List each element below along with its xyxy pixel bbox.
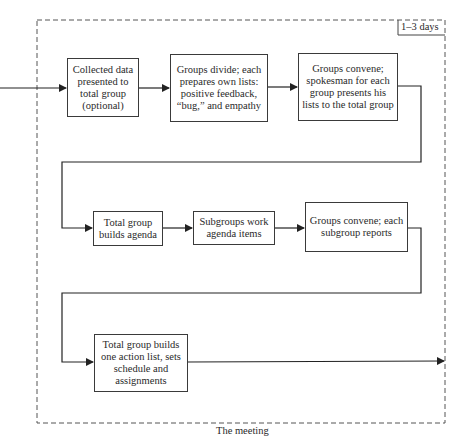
step-6-text: Groups convene; each subgroup reports xyxy=(309,215,404,239)
step-5-text: Subgroups work agenda items xyxy=(197,216,271,240)
step-4-text: Total group builds agenda xyxy=(97,217,159,241)
step-1-text: Collected data presented to total group … xyxy=(71,64,135,112)
duration-label: 1–3 days xyxy=(401,21,439,32)
step-5-subgroups-work: Subgroups work agenda items xyxy=(193,211,275,245)
step-4-build-agenda: Total group builds agenda xyxy=(93,211,163,246)
step-7-action-list: Total group builds one action list, sets… xyxy=(94,334,188,392)
step-7-text: Total group builds one action list, sets… xyxy=(98,339,184,387)
step-6-subgroup-reports: Groups convene; each subgroup reports xyxy=(305,202,408,252)
step-1-collected-data: Collected data presented to total group … xyxy=(67,58,139,117)
diagram-caption: The meeting xyxy=(216,425,269,436)
step-3-text: Groups convene; spokesman for each group… xyxy=(302,63,394,111)
step-2-groups-divide: Groups divide; each prepares own lists: … xyxy=(170,54,268,122)
step-2-text: Groups divide; each prepares own lists: … xyxy=(174,64,264,112)
step-3-groups-convene: Groups convene; spokesman for each group… xyxy=(298,53,398,121)
